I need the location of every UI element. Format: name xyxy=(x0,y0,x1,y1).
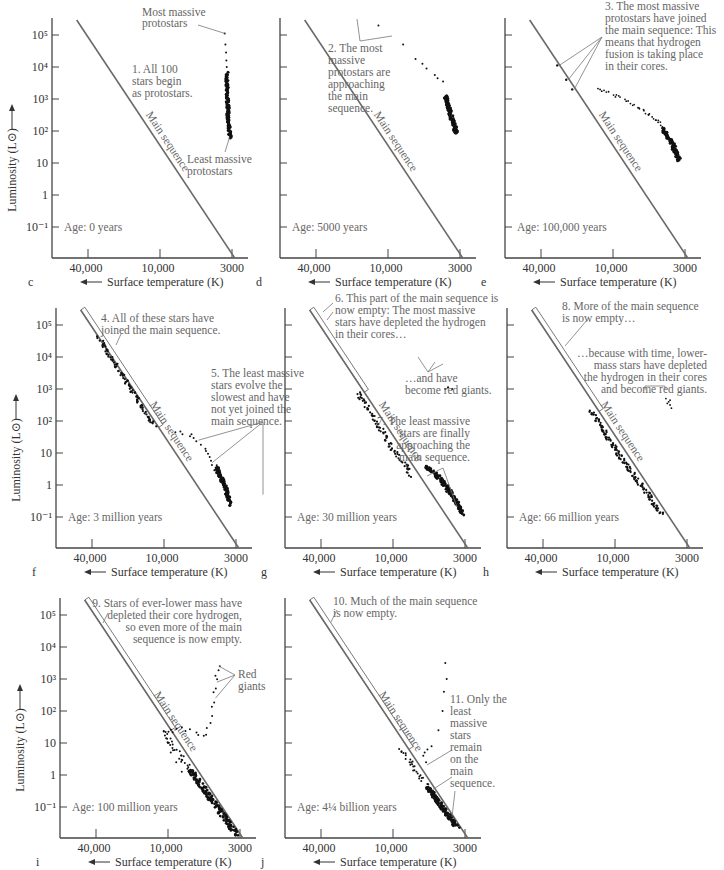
x-tick-label: 40,000 xyxy=(78,841,111,855)
star-point xyxy=(597,88,599,90)
y-axis-label: Luminosity (L⊙) xyxy=(9,418,23,502)
y-tick-label: 1 xyxy=(46,478,52,492)
annotation-text: protostars xyxy=(187,165,233,178)
star-point xyxy=(179,750,181,752)
star-point xyxy=(222,815,225,818)
star-point xyxy=(189,728,191,730)
star-point xyxy=(359,396,361,398)
star-point xyxy=(599,422,601,424)
x-axis-label: Surface temperature (K) xyxy=(340,565,457,579)
star-point xyxy=(215,688,217,690)
annotation-text: stars xyxy=(450,729,472,741)
star-point xyxy=(639,108,641,110)
star-point xyxy=(603,433,605,435)
star-point xyxy=(405,754,407,756)
age-label: Age: 4¼ billion years xyxy=(297,801,397,814)
age-label: Age: 100 million years xyxy=(72,801,178,814)
star-point xyxy=(646,491,648,493)
y-axis-label: Luminosity (L⊙) xyxy=(5,128,19,212)
star-point xyxy=(227,824,230,827)
star-point xyxy=(431,745,433,747)
star-point xyxy=(633,473,635,475)
star-point xyxy=(205,734,207,736)
x-axis-label: Surface temperature (K) xyxy=(107,275,224,289)
star-point xyxy=(459,511,462,514)
star-point xyxy=(357,397,359,399)
star-point xyxy=(598,420,600,422)
age-label: Age: 100,000 years xyxy=(517,221,607,234)
annotation-leader-line xyxy=(323,303,333,312)
panel-letter: i xyxy=(36,855,40,869)
star-point xyxy=(651,500,653,502)
annotation-text: and become red giants. xyxy=(601,383,707,396)
star-point xyxy=(129,388,131,390)
star-point xyxy=(427,783,429,785)
star-point xyxy=(605,91,607,93)
star-point xyxy=(434,74,436,76)
star-point xyxy=(666,403,668,405)
annotation-text: remain xyxy=(450,741,482,753)
star-point xyxy=(166,733,168,735)
star-point xyxy=(374,415,376,417)
star-point xyxy=(210,796,213,799)
star-point xyxy=(427,786,430,789)
star-point xyxy=(619,458,621,460)
x-tick-label: 3000 xyxy=(675,551,699,565)
star-point xyxy=(618,95,620,97)
annotation-text: 1. All 100 xyxy=(132,63,178,75)
star-point xyxy=(211,715,213,717)
star-point xyxy=(356,393,358,395)
annotation-text: 5. The least massive xyxy=(211,367,304,379)
star-point xyxy=(213,691,215,693)
star-point xyxy=(390,443,392,445)
star-point xyxy=(608,436,610,438)
star-point xyxy=(181,771,183,773)
x-tick-label: 40,000 xyxy=(70,261,103,275)
star-point xyxy=(656,505,658,507)
main-sequence-label: Main sequence xyxy=(143,109,192,174)
star-point xyxy=(616,94,618,96)
star-point xyxy=(410,476,412,478)
x-tick-label: 3000 xyxy=(673,261,697,275)
star-point xyxy=(647,496,649,498)
star-point xyxy=(624,98,626,100)
star-point xyxy=(186,768,188,770)
star-point xyxy=(181,754,183,756)
star-point xyxy=(600,425,602,427)
annotation-leader-line xyxy=(212,422,263,463)
star-point xyxy=(629,468,631,470)
star-point xyxy=(656,509,658,511)
annotation-text: as protostars. xyxy=(132,87,193,100)
star-point xyxy=(406,466,408,468)
star-point xyxy=(645,113,647,115)
star-point xyxy=(414,765,416,767)
y-tick-label: 10³ xyxy=(40,672,56,686)
x-tick-label: 10,000 xyxy=(146,551,179,565)
star-point xyxy=(393,451,395,453)
annotation-leader-line xyxy=(432,777,452,790)
star-point xyxy=(407,469,409,471)
x-tick-label: 40,000 xyxy=(74,551,107,565)
star-point xyxy=(421,777,423,779)
star-point xyxy=(642,487,644,489)
panel-j: 40,00010,0003000jSurface temperature (K)… xyxy=(260,595,507,869)
x-tick-label: 3000 xyxy=(448,261,472,275)
x-tick-label: 40,000 xyxy=(303,551,336,565)
star-point xyxy=(213,802,216,805)
annotation-text: slowest and have xyxy=(211,391,290,403)
annotation-text: the main xyxy=(328,90,368,102)
star-point xyxy=(366,408,368,410)
star-point xyxy=(382,431,384,433)
star-point xyxy=(625,466,627,468)
y-tick-label: 10 xyxy=(40,446,52,460)
annotation-text: 4. All of these stars have xyxy=(101,312,214,324)
y-tick-label: 1 xyxy=(50,768,56,782)
star-point xyxy=(611,445,613,447)
star-point xyxy=(422,755,424,757)
x-tick-label: 10,000 xyxy=(142,261,175,275)
left-arrow-icon xyxy=(533,279,540,285)
star-point xyxy=(187,765,189,767)
star-point xyxy=(603,89,605,91)
star-point xyxy=(225,822,228,825)
star-point xyxy=(610,439,612,441)
